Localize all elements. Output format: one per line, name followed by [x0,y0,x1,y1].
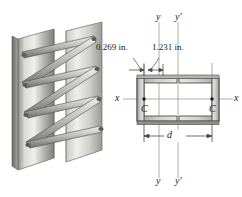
dimension-leaders [133,58,159,68]
axis-label-x-left: x [115,93,119,103]
cross-section-svg [115,0,242,197]
dimension-label-0269: 0.269 in. [96,43,128,52]
engineering-figure: 0.269 in. 1.231 in. d y y′ y y′ x x C C [0,0,242,197]
laced-column-pictorial [0,0,118,197]
dimension-line-1231 [148,64,163,76]
dimension-line-0269 [129,64,144,76]
cross-section-diagram: 0.269 in. 1.231 in. d y y′ y y′ x x C C [115,0,242,197]
centroid-dot-left [142,97,145,100]
dimension-label-d: d [167,130,172,140]
axis-label-y-top: y [156,12,160,22]
axis-label-y-prime-bottom: y′ [175,176,182,186]
axis-label-y-prime-top: y′ [175,12,182,22]
dimension-label-1231: 1.231 in. [152,43,184,52]
pictorial-svg [0,0,118,197]
axis-label-y-bottom: y [156,176,160,186]
centroid-label-left: C [141,104,148,114]
axis-label-x-right: x [234,93,238,103]
centroid-dot-right [210,97,213,100]
centroid-label-right: C [209,104,216,114]
